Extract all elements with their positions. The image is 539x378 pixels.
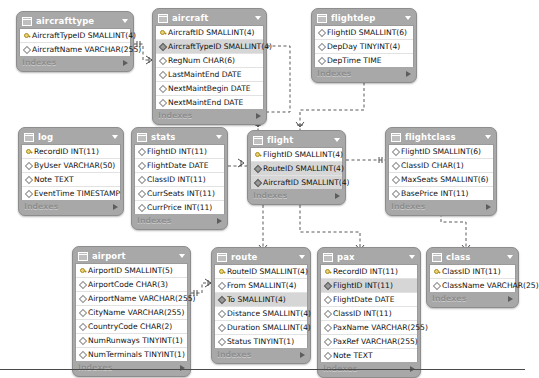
indexes-section-flightclass[interactable]: Indexes [388,200,494,213]
entity-table-flightdep[interactable]: flightdepFlightID SMALLINT(6)DepDay TINY… [311,8,417,83]
column-row[interactable]: AircraftID SMALLINT(4) [251,176,342,189]
table-header-flightclass[interactable]: flightclass [388,130,494,144]
table-header-log[interactable]: log [21,130,121,144]
column-row[interactable]: RegNum CHAR(6) [156,54,263,68]
entity-table-pax[interactable]: paxRecordID INT(11)FlightID INT(11)Fligh… [317,247,421,378]
column-row[interactable]: DepDay TINYINT(4) [315,40,413,54]
chevron-down-icon[interactable] [299,255,305,259]
column-row[interactable]: Note TEXT [22,173,120,187]
table-header-class[interactable]: class [429,250,516,264]
chevron-down-icon[interactable] [409,255,415,259]
entity-table-flightclass[interactable]: flightclassFlightID SMALLINT(6)ClassID C… [385,127,497,216]
chevron-down-icon[interactable] [334,138,340,142]
column-row[interactable]: CityName VARCHAR(255) [76,306,187,320]
column-row[interactable]: EventTime TIMESTAMP [22,187,120,200]
entity-table-log[interactable]: logRecordID INT(11)ByUser VARCHAR(50)Not… [18,127,124,216]
column-row[interactable]: ClassID CHAR(1) [389,159,493,173]
column-row[interactable]: AirportID SMALLINT(5) [76,264,187,278]
chevron-down-icon[interactable] [507,255,513,259]
indexes-section-airport[interactable]: Indexes [75,361,188,374]
column-row[interactable]: NumTerminals TINYINT(1) [76,348,187,361]
table-header-airport[interactable]: airport [75,249,188,263]
column-row[interactable]: RecordID INT(11) [22,145,120,159]
chevron-down-icon[interactable] [122,19,128,23]
entity-table-aircraft[interactable]: aircraftAircraftID SMALLINT(4)AircraftTy… [152,8,267,125]
table-header-flightdep[interactable]: flightdep [314,11,414,25]
column-row[interactable]: NumRunways TINYINT(1) [76,334,187,348]
column-row[interactable]: ClassName VARCHAR(25) [430,279,515,292]
table-header-flight[interactable]: flight [250,133,343,147]
column-row[interactable]: NextMaintEnd DATE [156,96,263,109]
expand-arrow-icon[interactable] [406,71,411,77]
column-row[interactable]: FlightDate DATE [321,293,417,307]
entity-table-aircrafttype[interactable]: aircrafttypeAircraftTypeID SMALLINT(4)Ai… [16,11,134,72]
chevron-down-icon[interactable] [179,254,185,258]
column-row[interactable]: RouteID SMALLINT(4) [251,162,342,176]
table-header-aircraft[interactable]: aircraft [155,11,264,25]
column-row[interactable]: AircraftID SMALLINT(4) [156,26,263,40]
column-row[interactable]: BasePrice INT(11) [389,187,493,200]
indexes-section-flight[interactable]: Indexes [250,189,343,202]
entity-table-route[interactable]: routeRouteID SMALLINT(4)From SMALLINT(4)… [211,247,311,364]
table-header-pax[interactable]: pax [320,250,418,264]
column-row[interactable]: PaxRef VARCHAR(255) [321,335,417,349]
column-row[interactable]: LastMaintEnd DATE [156,68,263,82]
expand-arrow-icon[interactable] [335,193,340,199]
indexes-section-class[interactable]: Indexes [429,292,516,305]
entity-table-class[interactable]: classClassID INT(11)ClassName VARCHAR(25… [426,247,519,308]
column-row[interactable]: ByUser VARCHAR(50) [22,159,120,173]
chevron-down-icon[interactable] [405,16,411,20]
indexes-section-log[interactable]: Indexes [21,200,121,213]
column-row[interactable]: FlightID SMALLINT(6) [315,26,413,40]
indexes-section-aircraft[interactable]: Indexes [155,109,264,122]
expand-arrow-icon[interactable] [217,218,222,224]
table-header-stats[interactable]: stats [134,130,225,144]
entity-table-flight[interactable]: flightFlightID SMALLINT(4)RouteID SMALLI… [247,130,346,205]
expand-arrow-icon[interactable] [256,113,261,119]
column-row[interactable]: AircraftName VARCHAR(255) [20,43,130,56]
expand-arrow-icon[interactable] [486,204,491,210]
chevron-down-icon[interactable] [485,135,491,139]
indexes-section-route[interactable]: Indexes [214,348,308,361]
indexes-section-aircrafttype[interactable]: Indexes [19,56,131,69]
column-row[interactable]: CurrPrice INT(11) [135,201,224,214]
chevron-down-icon[interactable] [112,135,118,139]
expand-arrow-icon[interactable] [113,204,118,210]
column-row[interactable]: MaxSeats SMALLINT(6) [389,173,493,187]
column-row[interactable]: RouteID SMALLINT(4) [215,265,307,279]
column-row[interactable]: AirportCode CHAR(3) [76,278,187,292]
column-row[interactable]: AircraftTypeID SMALLINT(4) [156,40,263,54]
column-row[interactable]: AirportName VARCHAR(255) [76,292,187,306]
chevron-down-icon[interactable] [255,16,261,20]
entity-table-stats[interactable]: statsFlightID INT(11)FlightDate DATEClas… [131,127,228,230]
indexes-section-flightdep[interactable]: Indexes [314,67,414,80]
indexes-section-stats[interactable]: Indexes [134,214,225,227]
column-row[interactable]: Duration SMALLINT(4) [215,321,307,335]
chevron-down-icon[interactable] [216,135,222,139]
column-row[interactable]: PaxName VARCHAR(255) [321,321,417,335]
column-row[interactable]: NextMaintBegin DATE [156,82,263,96]
column-row[interactable]: FlightID SMALLINT(6) [389,145,493,159]
column-row[interactable]: CountryCode CHAR(2) [76,320,187,334]
column-row[interactable]: RecordID INT(11) [321,265,417,279]
table-header-aircrafttype[interactable]: aircrafttype [19,14,131,28]
expand-arrow-icon[interactable] [123,60,128,66]
column-row[interactable]: CurrSeats INT(11) [135,187,224,201]
expand-arrow-icon[interactable] [300,352,305,358]
column-row[interactable]: Status TINYINT(1) [215,335,307,348]
entity-table-airport[interactable]: airportAirportID SMALLINT(5)AirportCode … [72,246,191,377]
column-row[interactable]: ClassID INT(11) [430,265,515,279]
column-row[interactable]: FlightDate DATE [135,159,224,173]
column-row[interactable]: From SMALLINT(4) [215,279,307,293]
column-row[interactable]: To SMALLINT(4) [215,293,307,307]
column-row[interactable]: Distance SMALLINT(4) [215,307,307,321]
column-row[interactable]: FlightID INT(11) [135,145,224,159]
column-row[interactable]: Note TEXT [321,349,417,362]
column-row[interactable]: FlightID INT(11) [321,279,417,293]
column-row[interactable]: DepTime TIME [315,54,413,67]
table-header-route[interactable]: route [214,250,308,264]
column-row[interactable]: ClassID INT(11) [135,173,224,187]
column-row[interactable]: AircraftTypeID SMALLINT(4) [20,29,130,43]
column-row[interactable]: FlightID SMALLINT(4) [251,148,342,162]
